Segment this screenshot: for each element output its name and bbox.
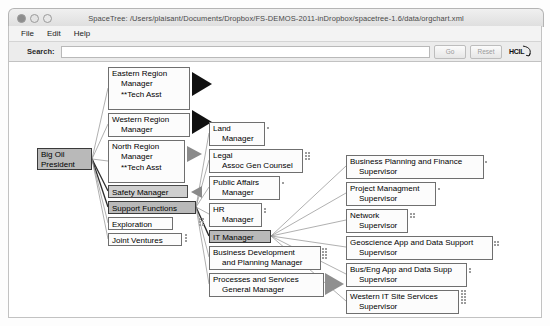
collapsed-dots-public-affairs-icon[interactable]: [282, 182, 284, 184]
tree-node-project-management[interactable]: Project Managment Supervisor: [346, 182, 436, 206]
tree-node-public-affairs-manager[interactable]: Public Affairs Manager: [209, 176, 280, 200]
node-line: **Tech Asst: [112, 161, 181, 173]
node-line: Support Functions: [112, 204, 192, 214]
window-title: SpaceTree: /Users/plaisant/Documents/Dro…: [9, 14, 543, 23]
tree-node-eastern-region-manager[interactable]: Eastern Region Manager **Tech Asst: [108, 67, 190, 110]
node-line: Manager: [213, 215, 258, 225]
node-line: North Region: [112, 142, 181, 152]
tree-node-business-planning-finance[interactable]: Business Planning and Finance Supervisor: [346, 155, 484, 179]
collapsed-dots-network-icon[interactable]: [410, 213, 415, 218]
node-line: Manager: [213, 134, 261, 144]
node-line: Big Oil: [41, 150, 88, 160]
node-line: Public Affairs: [213, 178, 276, 188]
node-line: Legal: [213, 151, 299, 161]
collapsed-dots-project-management-icon[interactable]: [438, 188, 440, 190]
spacetree-window: SpaceTree: /Users/plaisant/Documents/Dro…: [0, 0, 550, 326]
node-line: Business Planning and Finance: [350, 157, 480, 167]
collapsed-dots-business-planning-icon[interactable]: [485, 161, 487, 163]
collapsed-dots-geoscience-icon[interactable]: [494, 241, 499, 246]
menu-item-edit[interactable]: Edit: [47, 29, 61, 38]
node-line: Supervisor: [350, 302, 455, 312]
collapsed-subtree-safety-manager-icon[interactable]: [191, 186, 202, 198]
node-line: Safety Manager: [112, 188, 184, 198]
collapsed-dots-business-dev-icon[interactable]: [322, 248, 327, 259]
collapsed-subtree-processes-services-icon[interactable]: [325, 273, 344, 295]
node-line: Supervisor: [350, 248, 489, 258]
tree-node-support-functions[interactable]: Support Functions: [108, 201, 196, 214]
tree-node-business-development[interactable]: Business Development and Planning Manage…: [209, 246, 321, 270]
collapsed-dots-hr-manager-icon[interactable]: [264, 208, 266, 213]
node-line: Joint Ventures: [112, 236, 178, 246]
node-line: Supervisor: [350, 194, 432, 204]
collapsed-dots-exploration-icon[interactable]: [199, 218, 204, 226]
collapsed-dots-land-manager-icon[interactable]: [267, 127, 269, 129]
node-line: Manager: [112, 125, 186, 135]
node-line: and Planning Manager: [213, 258, 317, 268]
node-line: Manager: [112, 79, 186, 89]
node-line: IT Manager: [213, 233, 267, 243]
node-line: Project Managment: [350, 184, 432, 194]
collapsed-dots-joint-ventures-icon[interactable]: [185, 234, 187, 242]
tree-node-western-it-site-services[interactable]: Western IT Site Services Supervisor: [346, 290, 459, 314]
node-line: Business Development: [213, 248, 317, 258]
hcil-logo[interactable]: HCIL: [509, 45, 533, 59]
hcil-swoosh-icon: [521, 45, 533, 58]
tree-node-north-region-manager[interactable]: North Region Manager **Tech Asst: [108, 140, 185, 183]
tree-node-hr-manager[interactable]: HR Manager: [209, 203, 262, 227]
menu-bar: File Edit Help: [8, 26, 542, 41]
node-line: Manager: [213, 188, 276, 198]
tree-node-bus-eng-app-data-supp[interactable]: Bus/Eng App and Data Supp Supervisor: [346, 263, 467, 287]
tree-node-legal-assoc-gen-counsel[interactable]: Legal Assoc Gen Counsel: [209, 149, 303, 173]
node-line: President: [41, 160, 88, 170]
tree-node-joint-ventures[interactable]: Joint Ventures: [108, 233, 182, 246]
node-line: Manager: [112, 152, 181, 162]
go-button[interactable]: Go: [434, 45, 466, 59]
tree-node-processes-and-services[interactable]: Processes and Services General Manager: [209, 273, 324, 297]
collapsed-dots-western-it-icon[interactable]: [461, 290, 466, 304]
search-bar: Search: Go Reset HCIL: [8, 41, 542, 62]
node-line: HR: [213, 205, 258, 215]
node-line: Eastern Region: [112, 69, 186, 79]
tree-node-network-supervisor[interactable]: Network Supervisor: [346, 209, 408, 233]
node-line: Network: [350, 211, 404, 221]
node-line: Bus/Eng App and Data Supp: [350, 265, 463, 275]
node-line: Geoscience App and Data Support: [350, 238, 489, 248]
node-line: Supervisor: [350, 167, 480, 177]
title-bar: SpaceTree: /Users/plaisant/Documents/Dro…: [8, 8, 544, 27]
menu-item-file[interactable]: File: [21, 29, 34, 38]
tree-node-big-oil-president[interactable]: Big Oil President: [37, 148, 92, 170]
collapsed-subtree-north-region-icon[interactable]: [187, 146, 202, 162]
search-label: Search:: [27, 47, 55, 56]
tree-node-safety-manager[interactable]: Safety Manager: [108, 185, 188, 198]
node-line: Processes and Services: [213, 275, 320, 285]
menu-item-help[interactable]: Help: [74, 29, 90, 38]
node-line: Assoc Gen Counsel: [213, 161, 299, 171]
node-line: Western Region: [112, 115, 186, 125]
collapsed-dots-bus-eng-icon[interactable]: [469, 268, 471, 273]
tree-node-western-region-manager[interactable]: Western Region Manager: [108, 113, 190, 137]
collapsed-subtree-eastern-region-icon[interactable]: [192, 72, 212, 96]
node-line: Land: [213, 124, 261, 134]
tree-canvas[interactable]: Big Oil President Eastern Region Manager…: [8, 62, 542, 318]
node-line: General Manager: [213, 285, 320, 295]
node-line: **Tech Asst: [112, 88, 186, 100]
collapsed-dots-legal-counsel-icon[interactable]: [305, 152, 310, 160]
search-input[interactable]: [61, 46, 430, 58]
node-line: Exploration: [112, 220, 169, 230]
tree-node-it-manager[interactable]: IT Manager: [209, 230, 271, 243]
reset-button[interactable]: Reset: [470, 45, 502, 59]
tree-node-geoscience-app-data-support[interactable]: Geoscience App and Data Support Supervis…: [346, 236, 493, 260]
node-line: Supervisor: [350, 221, 404, 231]
node-line: Supervisor: [350, 275, 463, 285]
tree-node-land-manager[interactable]: Land Manager: [209, 122, 265, 146]
node-line: Western IT Site Services: [350, 292, 455, 302]
tree-node-exploration[interactable]: Exploration: [108, 217, 173, 230]
